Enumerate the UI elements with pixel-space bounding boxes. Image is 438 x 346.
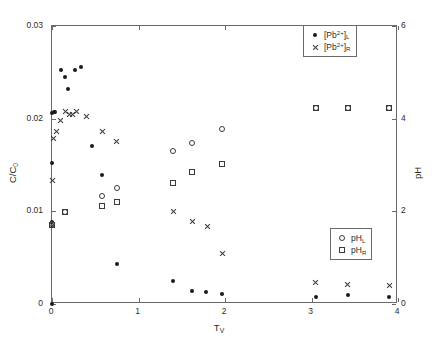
data-point xyxy=(113,138,120,145)
data-point xyxy=(313,105,319,111)
data-point xyxy=(345,105,351,111)
data-point xyxy=(73,108,80,115)
legend-ph-item: pHL xyxy=(335,232,366,244)
x-axis-tick-label: 1 xyxy=(135,306,140,316)
data-point xyxy=(99,203,105,209)
data-point xyxy=(49,177,56,184)
data-point xyxy=(79,65,83,69)
cross-marker-icon xyxy=(312,44,319,51)
data-point xyxy=(59,68,63,72)
y-axis-left-title: C/C0 xyxy=(7,163,19,183)
legend-ph: pHLpHR xyxy=(330,228,372,260)
data-point xyxy=(189,218,196,225)
data-point xyxy=(170,148,176,154)
data-point xyxy=(189,169,195,175)
data-point xyxy=(53,110,57,114)
y-axis-left-tick-label: 0.03 xyxy=(26,20,43,30)
data-point xyxy=(62,209,68,215)
data-point xyxy=(386,105,392,111)
legend-marker xyxy=(308,41,322,53)
x-axis-tick-labels: 01234 xyxy=(51,306,397,320)
y-axis-right-tick-label: 2 xyxy=(401,205,406,215)
data-point xyxy=(99,128,106,135)
data-point xyxy=(189,140,195,146)
figure-scatter-plot: 00.010.020.03 0246 01234 C/C0 pH TV [Pb2… xyxy=(0,0,438,346)
data-point xyxy=(83,113,90,120)
x-axis-tick-label: 4 xyxy=(395,306,400,316)
data-point xyxy=(204,290,208,294)
data-point xyxy=(63,75,67,79)
data-point xyxy=(66,87,70,91)
data-point xyxy=(73,68,77,72)
y-axis-left-tick-label: 0 xyxy=(38,298,43,308)
legend-ph-item: pHR xyxy=(335,244,366,256)
data-point xyxy=(49,222,55,228)
plot-area xyxy=(51,25,397,303)
x-axis-tick-label: 2 xyxy=(222,306,227,316)
circle-marker-icon xyxy=(339,235,345,241)
x-axis-title: TV xyxy=(0,322,438,334)
legend-marker xyxy=(335,244,349,256)
y-axis-left-tick-label: 0.01 xyxy=(26,205,43,215)
x-axis-tick xyxy=(398,298,399,302)
data-point xyxy=(114,185,120,191)
data-point xyxy=(99,193,105,199)
y-axis-right-tick-label: 0 xyxy=(401,298,406,308)
data-point xyxy=(204,223,211,230)
data-point xyxy=(219,250,226,257)
data-point xyxy=(220,292,224,296)
legend-pb-item: [Pb2+]R xyxy=(308,41,351,53)
legend-label: pHR xyxy=(349,245,366,256)
dot-marker-icon xyxy=(313,33,317,37)
legend-label: [Pb2+]R xyxy=(322,41,351,52)
data-point xyxy=(344,281,351,288)
data-point xyxy=(387,295,391,299)
y-axis-right-tick xyxy=(392,304,396,305)
data-point xyxy=(170,180,176,186)
data-point xyxy=(53,128,60,135)
legend-marker xyxy=(335,232,349,244)
data-point xyxy=(100,173,104,177)
data-points-layer xyxy=(52,26,396,302)
y-axis-left-tick-label: 0.02 xyxy=(26,113,43,123)
square-marker-icon xyxy=(339,247,345,253)
data-point xyxy=(312,279,319,286)
data-point xyxy=(50,135,57,142)
y-axis-right-title: pH xyxy=(412,167,423,179)
data-point xyxy=(190,289,194,293)
legend-lead-concentration: [Pb2+]L[Pb2+]R xyxy=(303,25,357,57)
data-point xyxy=(171,279,175,283)
y-axis-right-tick-labels: 0246 xyxy=(401,25,435,303)
legend-label: pHL xyxy=(349,233,365,244)
data-point xyxy=(115,262,119,266)
data-point xyxy=(386,282,393,289)
data-point xyxy=(314,295,318,299)
data-point xyxy=(50,302,54,306)
y-axis-right-tick-label: 6 xyxy=(401,20,406,30)
data-point xyxy=(90,144,94,148)
y-axis-right-tick-label: 4 xyxy=(401,113,406,123)
data-point xyxy=(219,126,225,132)
legend-label: [Pb2+]L xyxy=(322,29,350,40)
data-point xyxy=(57,117,64,124)
data-point xyxy=(50,161,54,165)
data-point xyxy=(170,208,177,215)
legend-pb-item: [Pb2+]L xyxy=(308,29,351,41)
data-point xyxy=(114,199,120,205)
legend-marker xyxy=(308,29,322,41)
x-axis-tick-label: 3 xyxy=(308,306,313,316)
data-point xyxy=(346,293,350,297)
data-point xyxy=(219,161,225,167)
x-axis-tick-top xyxy=(398,26,399,30)
x-axis-tick-label: 0 xyxy=(49,306,54,316)
